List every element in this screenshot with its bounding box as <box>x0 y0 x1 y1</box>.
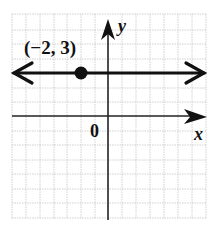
x-axis-label: x <box>193 124 203 144</box>
coordinate-graph: (−2, 3) y x 0 <box>0 0 224 225</box>
origin-label: 0 <box>90 121 99 141</box>
line-y-equals-3 <box>14 63 204 83</box>
point-label: (−2, 3) <box>24 37 76 59</box>
y-axis <box>101 19 115 220</box>
y-axis-label: y <box>116 16 127 36</box>
point-minus2-3 <box>75 67 88 80</box>
